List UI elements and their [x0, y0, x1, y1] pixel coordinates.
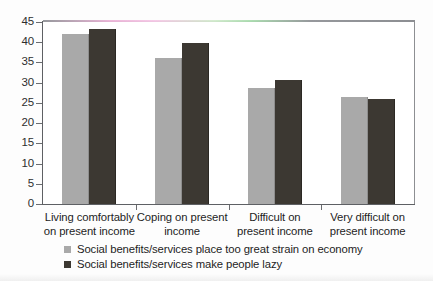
legend-swatch-icon: [64, 246, 71, 253]
y-axis-tick-label: 15: [0, 137, 34, 149]
y-axis-tick: [36, 184, 42, 185]
y-axis-tick-label: 30: [0, 77, 34, 89]
y-axis-tick-label: 45: [0, 16, 34, 28]
chart-screenshot: 454035302520151050 Living comfortablyon …: [0, 0, 433, 281]
category-label: Very difficult onpresent income: [313, 211, 422, 238]
y-axis-tick: [36, 164, 42, 165]
bar-1-2: [275, 80, 302, 204]
bar-0-1: [155, 58, 182, 204]
bar-0-0: [62, 34, 89, 204]
y-axis-tick: [36, 123, 42, 124]
legend-item-0: Social benefits/services place too great…: [64, 242, 363, 256]
y-axis-tick: [36, 22, 42, 23]
legend-label: Social benefits/services make people laz…: [77, 258, 282, 271]
y-axis-tick: [36, 83, 42, 84]
y-axis-tick-label: 20: [0, 117, 34, 129]
bar-0-2: [248, 88, 275, 204]
y-axis-tick: [36, 62, 42, 63]
y-axis-tick-label: 25: [0, 97, 34, 109]
legend-label: Social benefits/services place too great…: [77, 243, 363, 256]
x-axis-tick: [321, 205, 322, 210]
scan-edge-shadow: [0, 274, 433, 281]
legend-item-1: Social benefits/services make people laz…: [64, 257, 363, 271]
bar-1-3: [368, 99, 395, 204]
y-axis-tick-label: 35: [0, 56, 34, 68]
bars-layer: [43, 22, 414, 204]
chart-legend: Social benefits/services place too great…: [64, 242, 363, 272]
x-axis-tick: [136, 205, 137, 210]
bar-0-3: [341, 97, 368, 204]
category-label-line: Very difficult on: [313, 211, 422, 225]
x-axis-tick: [229, 205, 230, 210]
legend-swatch-icon: [64, 261, 71, 268]
y-axis-tick-label: 0: [0, 198, 34, 210]
y-axis-tick-label: 40: [0, 36, 34, 48]
y-axis-tick: [36, 143, 42, 144]
y-axis-tick-label: 10: [0, 158, 34, 170]
category-label-line: present income: [313, 225, 422, 239]
y-axis-tick-label: 5: [0, 178, 34, 190]
y-axis-tick: [36, 103, 42, 104]
y-axis-tick: [36, 42, 42, 43]
bar-1-0: [89, 29, 116, 204]
bar-1-1: [182, 43, 209, 204]
